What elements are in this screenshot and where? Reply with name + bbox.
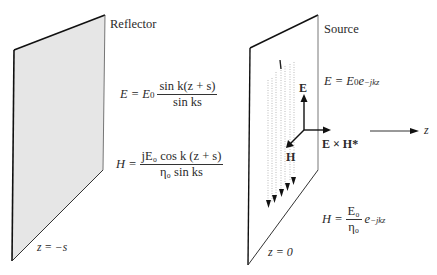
h-field-arrow xyxy=(286,130,304,148)
reflector-position-label: z = −s xyxy=(37,241,67,253)
source-plane xyxy=(248,15,318,265)
source-position-label: z = 0 xyxy=(268,245,293,260)
reflector-label: Reflector xyxy=(110,17,157,32)
reflector-h-equation: H = jE₀ cos k (z + s) η₀ sin ks xyxy=(116,150,223,179)
reflector-e-equation: E = E0 sin k(z + s) sin ks xyxy=(120,80,217,109)
z-axis-label: z xyxy=(424,123,429,138)
source-e-equation: E = E0e−jkz xyxy=(324,74,379,89)
poynting-label: E × H* xyxy=(322,137,358,152)
current-arrowheads xyxy=(266,177,296,208)
current-mark xyxy=(280,60,281,69)
reflector-plane xyxy=(12,15,105,261)
e-axis-label: E xyxy=(299,81,307,96)
source-label: Source xyxy=(324,22,359,37)
z-axis-arrow xyxy=(370,128,419,134)
source-h-equation: H = E₀ η₀ e−jkz xyxy=(322,205,385,234)
e-field-arrow xyxy=(301,94,308,130)
current-sheet-lines xyxy=(268,62,294,203)
h-axis-label: H xyxy=(286,150,295,165)
poynting-arrow xyxy=(304,127,331,134)
